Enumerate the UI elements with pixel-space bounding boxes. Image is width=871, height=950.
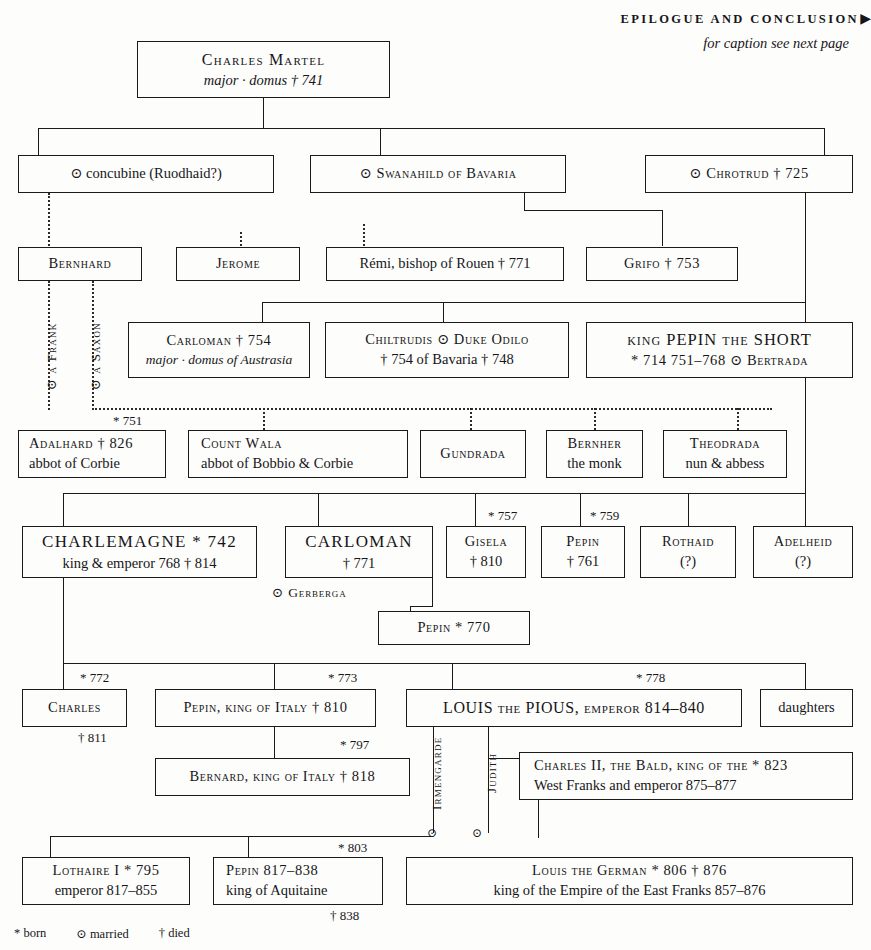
node-subtitle: † 771 — [343, 554, 376, 574]
connector — [805, 663, 806, 689]
node-chiltrudis-odilo[interactable]: Chiltrudis ⊙ Duke Odilo † 754 of Bavaria… — [325, 322, 569, 378]
node-subtitle: king of Aquitaine — [226, 881, 328, 901]
node-title: Bernhard — [49, 254, 112, 274]
node-pepin-770[interactable]: Pepin * 770 — [378, 611, 530, 645]
connector-dotted — [363, 224, 365, 246]
node-charles-the-bald[interactable]: Charles II, the Bald, king of the * 823 … — [519, 752, 853, 800]
node-title: Gisela — [465, 532, 507, 552]
connector — [580, 493, 581, 526]
node-title: Pepin, king of Italy † 810 — [183, 698, 347, 718]
node-title: LOUIS the PIOUS, emperor 814–840 — [443, 697, 705, 719]
marriage-icon-judith: ⊙ — [472, 826, 482, 841]
node-pepin-king-of-aquitaine[interactable]: Pepin 817–838 king of Aquitaine — [213, 857, 383, 905]
label-born-803: * 803 — [338, 840, 367, 856]
node-subtitle: abbot of Bobbio & Corbie — [201, 454, 353, 474]
node-title: Charles Martel — [202, 49, 325, 71]
page-header-title: EPILOGUE AND CONCLUSION — [620, 12, 859, 27]
node-pepin-king-of-italy[interactable]: Pepin, king of Italy † 810 — [155, 689, 376, 727]
node-rothaid[interactable]: Rothaid (?) — [640, 526, 736, 578]
node-theodrada[interactable]: Theodrada nun & abbess — [663, 430, 787, 478]
node-subtitle: abbot of Corbie — [29, 454, 120, 474]
connector — [63, 578, 64, 664]
node-jerome[interactable]: Jerome — [176, 247, 300, 281]
connector — [274, 727, 275, 759]
marriage-icon-irmengarde: ⊙ — [427, 826, 437, 841]
node-daughters[interactable]: daughters — [760, 689, 853, 727]
connector-bus — [63, 663, 805, 664]
node-subtitle: major · domus of Austrasia — [146, 351, 292, 369]
node-gisela[interactable]: Gisela † 810 — [446, 526, 526, 578]
node-concubine-ruodhaid[interactable]: ⊙ concubine (Ruodhaid?) — [18, 155, 274, 193]
connector — [538, 800, 539, 838]
legend-born: * born — [14, 926, 46, 942]
connector — [262, 302, 263, 322]
node-subtitle: † 761 — [567, 552, 600, 572]
node-title: CHARLEMAGNE * 742 — [42, 531, 237, 554]
node-title: Louis the German * 806 † 876 — [532, 861, 727, 881]
node-bernher[interactable]: Bernher the monk — [546, 430, 643, 478]
label-a-frank: ⊙ a Frank — [44, 323, 60, 390]
node-gundrada[interactable]: Gundrada — [420, 430, 526, 478]
node-adelheid[interactable]: Adelheid (?) — [753, 526, 853, 578]
connector-dotted — [470, 408, 472, 430]
node-title: king PEPIN the SHORT — [627, 329, 812, 351]
connector — [805, 493, 806, 526]
node-grifo[interactable]: Grifo † 753 — [586, 247, 738, 281]
node-title: ⊙ Swanahild of Bavaria — [360, 164, 517, 184]
node-title: Charles II, the Bald, king of the * 823 — [534, 756, 788, 776]
connector-dotted — [48, 193, 50, 246]
connector — [524, 210, 663, 211]
node-subtitle: nun & abbess — [686, 454, 765, 474]
connector-dotted — [240, 232, 242, 246]
connector — [452, 663, 453, 689]
label-died-811: † 811 — [78, 730, 107, 746]
connector — [38, 128, 39, 155]
node-bernard-king-of-italy[interactable]: Bernard, king of Italy † 818 — [155, 758, 410, 796]
legend-married: ⊙ married — [76, 926, 128, 942]
node-bernhard[interactable]: Bernhard — [18, 247, 142, 281]
node-pepin-the-short[interactable]: king PEPIN the SHORT * 714 751–768 ⊙ Ber… — [586, 322, 853, 378]
node-count-wala[interactable]: Count Wala abbot of Bobbio & Corbie — [188, 430, 408, 478]
node-title: Bernher — [568, 434, 622, 454]
node-title: Pepin 817–838 — [226, 861, 318, 881]
node-charles-martel[interactable]: Charles Martel major · domus † 741 — [137, 41, 390, 98]
connector — [63, 493, 64, 526]
node-remi-bishop-of-rouen[interactable]: Rémi, bishop of Rouen † 771 — [326, 247, 564, 281]
connector — [263, 98, 264, 129]
node-title: Adelheid — [774, 532, 833, 552]
node-title: Pepin — [566, 532, 599, 552]
node-title: ⊙ Chrotrud † 725 — [689, 164, 809, 184]
connector — [63, 663, 64, 689]
node-louis-the-pious[interactable]: LOUIS the PIOUS, emperor 814–840 — [406, 689, 742, 727]
node-swanahild[interactable]: ⊙ Swanahild of Bavaria — [310, 155, 566, 193]
label-born-751: * 751 — [113, 413, 142, 429]
legend-died: † died — [159, 926, 190, 942]
label-born-773: * 773 — [328, 670, 357, 686]
node-charlemagne[interactable]: CHARLEMAGNE * 742 king & emperor 768 † 8… — [22, 526, 257, 578]
connector — [318, 493, 319, 526]
node-title: Lothaire I * 795 — [52, 861, 159, 881]
node-lothaire-i[interactable]: Lothaire I * 795 emperor 817–855 — [22, 857, 190, 905]
node-title: Theodrada — [690, 434, 760, 454]
connector-dotted — [737, 408, 739, 430]
connector — [380, 128, 381, 155]
connector-bus — [38, 128, 825, 129]
node-chrotrud[interactable]: ⊙ Chrotrud † 725 — [645, 155, 853, 193]
label-born-772: * 772 — [80, 670, 109, 686]
connector-dotted — [263, 408, 265, 430]
connector — [475, 493, 476, 526]
node-louis-the-german[interactable]: Louis the German * 806 † 876 king of the… — [406, 857, 853, 905]
node-subtitle: (?) — [680, 552, 696, 572]
node-carloman-754[interactable]: Carloman † 754 major · domus of Austrasi… — [128, 322, 310, 378]
connector-bus — [63, 493, 806, 494]
connector-dotted-bus — [92, 408, 772, 410]
node-title: Adalhard † 826 — [29, 434, 133, 454]
node-title: Rémi, bishop of Rouen † 771 — [360, 254, 531, 274]
node-carloman-771[interactable]: CARLOMAN † 771 — [285, 526, 433, 578]
node-adalhard[interactable]: Adalhard † 826 abbot of Corbie — [18, 430, 166, 478]
node-charles[interactable]: Charles — [22, 689, 127, 727]
connector — [248, 836, 249, 857]
connector — [662, 210, 663, 246]
caption-note: for caption see next page — [703, 35, 849, 52]
node-pepin-761[interactable]: Pepin † 761 — [541, 526, 625, 578]
